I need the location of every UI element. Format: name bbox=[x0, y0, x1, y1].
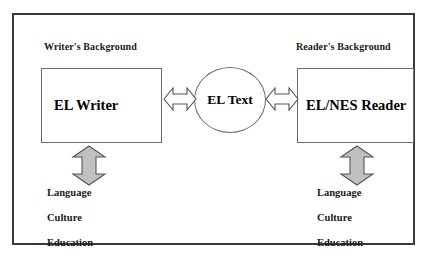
el-text-label: EL Text bbox=[207, 92, 252, 108]
reader-factor-language: Language bbox=[317, 187, 361, 198]
writer-factor-culture: Culture bbox=[47, 212, 82, 223]
el-writer-label: EL Writer bbox=[54, 97, 118, 114]
writer-text-bidirectional-arrow-icon bbox=[163, 78, 197, 120]
writer-background-heading: Writer's Background bbox=[44, 41, 137, 52]
writer-background-bidirectional-arrow-icon bbox=[71, 145, 107, 186]
writer-factor-language: Language bbox=[47, 187, 91, 198]
diagram-outer-frame: Writer's Background Reader's Background … bbox=[12, 13, 415, 245]
reader-factor-culture: Culture bbox=[317, 212, 352, 223]
el-text-ellipse: EL Text bbox=[194, 67, 266, 133]
el-nes-reader-label: EL/NES Reader bbox=[306, 97, 406, 114]
writer-factor-education: Education bbox=[47, 237, 93, 248]
reader-factor-education: Education bbox=[317, 237, 363, 248]
el-nes-reader-box: EL/NES Reader bbox=[297, 68, 414, 143]
diagram-canvas: Writer's Background Reader's Background … bbox=[0, 0, 428, 264]
reader-background-heading: Reader's Background bbox=[296, 41, 391, 52]
reader-background-bidirectional-arrow-icon bbox=[339, 145, 375, 186]
el-writer-box: EL Writer bbox=[41, 68, 162, 143]
text-reader-bidirectional-arrow-icon bbox=[265, 78, 299, 120]
